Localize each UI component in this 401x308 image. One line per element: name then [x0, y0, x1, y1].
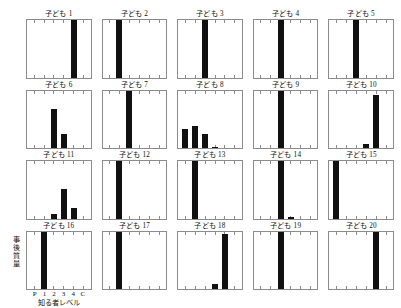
bar-slot-3	[211, 161, 219, 219]
panel-title: 子ども 16	[25, 222, 93, 231]
plot-area	[102, 90, 168, 150]
bar-slot-4	[372, 161, 380, 219]
bar-slot-1	[267, 20, 275, 78]
bar-slot-1	[342, 20, 350, 78]
panel-child-12: 子ども 12	[101, 151, 169, 220]
bar-slot-1	[267, 161, 275, 219]
panel-child-5: 子ども 5	[327, 10, 395, 79]
bar-slot-2	[201, 91, 209, 149]
bar-slot-2	[352, 232, 360, 290]
bar-slot-P	[30, 20, 38, 78]
panel-child-1: 子ども 1	[25, 10, 93, 79]
bar-slot-1	[191, 161, 199, 219]
x-tick-labels: P1234C	[28, 290, 90, 299]
panel-title: 子ども 8	[176, 81, 244, 90]
x-tick-label: 4	[69, 290, 77, 299]
plot-area	[26, 19, 92, 79]
bar-slot-1	[40, 232, 48, 290]
panel-title: 子ども 11	[25, 151, 93, 160]
bar-slot-1	[267, 232, 275, 290]
bar-slot-3	[135, 20, 143, 78]
panel-child-8: 子ども 8	[176, 81, 244, 150]
y-axis-title-char: 質	[11, 252, 21, 260]
bar-slot-P	[257, 161, 265, 219]
bar-slot-4	[69, 161, 77, 219]
panel-title: 子ども 12	[101, 151, 169, 160]
bar-slot-2	[352, 91, 360, 149]
bar-slot-2	[50, 161, 58, 219]
y-axis-title-char: 後	[11, 244, 21, 252]
bar-slot-P	[181, 232, 189, 290]
panel-child-6: 子ども 6	[25, 81, 93, 150]
bar-slot-C	[79, 91, 87, 149]
bar-slot-2	[201, 232, 209, 290]
panel-child-13: 子ども 13	[176, 151, 244, 220]
panel-child-16: 子ども 16P1234C知る者レベル事後質量	[25, 222, 93, 291]
bar-slot-1	[191, 91, 199, 149]
bar-slot-4	[296, 20, 304, 78]
bar	[116, 161, 122, 219]
bar	[278, 232, 284, 290]
bar-slot-1	[40, 91, 48, 149]
y-axis-title-char: 量	[11, 260, 21, 268]
bar-slot-4	[372, 20, 380, 78]
bar-slot-4	[372, 91, 380, 149]
bar-slot-3	[286, 20, 294, 78]
bar-slot-1	[115, 161, 123, 219]
bar-series	[178, 20, 242, 78]
bar-slot-P	[181, 91, 189, 149]
x-axis-title: 知る者レベル	[27, 299, 91, 308]
bar-slot-C	[155, 161, 163, 219]
bar-slot-C	[231, 91, 239, 149]
panel-child-2: 子ども 2	[101, 10, 169, 79]
x-tick-label: 3	[60, 290, 68, 299]
bar-slot-P	[332, 91, 340, 149]
bar-slot-4	[296, 161, 304, 219]
bar-slot-C	[231, 20, 239, 78]
bar	[182, 129, 188, 148]
bar	[333, 161, 339, 219]
bar	[212, 147, 218, 148]
panel-child-9: 子ども 9	[252, 81, 320, 150]
bar-slot-P	[332, 232, 340, 290]
bar-slot-C	[382, 20, 390, 78]
x-tick-label: 2	[50, 290, 58, 299]
bar-slot-2	[276, 20, 284, 78]
bar-series	[329, 232, 393, 290]
bar-slot-4	[372, 232, 380, 290]
bar-slot-C	[306, 161, 314, 219]
plot-area	[102, 231, 168, 291]
bar-slot-2	[125, 161, 133, 219]
bar	[353, 20, 359, 78]
bar-slot-P	[30, 232, 38, 290]
bar-slot-3	[135, 232, 143, 290]
bar-slot-C	[79, 232, 87, 290]
bar	[373, 95, 379, 148]
bar-slot-1	[267, 91, 275, 149]
plot-area	[102, 160, 168, 220]
panel-title: 子ども 3	[176, 10, 244, 19]
bar-slot-4	[145, 20, 153, 78]
bar-slot-3	[286, 91, 294, 149]
bar	[61, 134, 67, 148]
panel-title: 子ども 13	[176, 151, 244, 160]
plot-area	[102, 19, 168, 79]
bar	[222, 234, 228, 289]
panel-child-14: 子ども 14	[252, 151, 320, 220]
x-tick-label: P	[31, 290, 39, 299]
bar-slot-4	[221, 91, 229, 149]
y-axis-title: 事後質量	[11, 236, 21, 269]
bar-slot-2	[352, 161, 360, 219]
bar	[51, 109, 57, 148]
bar-slot-2	[50, 232, 58, 290]
bar-slot-3	[211, 232, 219, 290]
panel-title: 子ども 4	[252, 10, 320, 19]
bar-slot-2	[125, 20, 133, 78]
bar-slot-4	[69, 91, 77, 149]
bar-slot-P	[257, 20, 265, 78]
bar-slot-3	[211, 20, 219, 78]
panel-title: 子ども 14	[252, 151, 320, 160]
bar-slot-2	[276, 232, 284, 290]
panel-title: 子ども 20	[327, 222, 395, 231]
